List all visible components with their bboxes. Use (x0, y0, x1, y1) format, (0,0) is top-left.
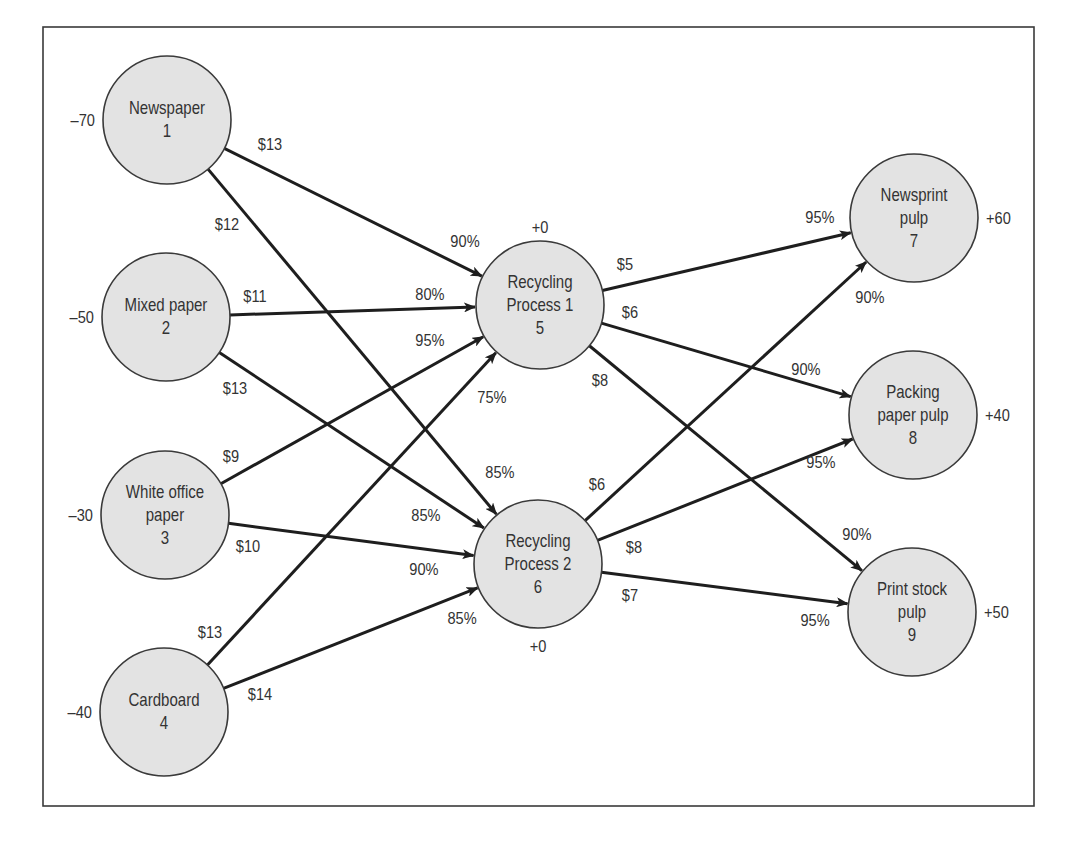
node-circle (100, 648, 228, 776)
node-label: Newsprint (881, 185, 948, 204)
node-label: Recycling (505, 531, 570, 550)
node-2: Mixed paper2–50 (70, 253, 230, 381)
edge-3-5-cost-label: $9 (223, 447, 239, 465)
edge-6-7-yield-label: 90% (855, 288, 884, 306)
node-1: Newspaper1–70 (71, 56, 231, 184)
edge-4-6-cost-label: $14 (248, 685, 273, 703)
edge-5-8-cost-label: $6 (622, 303, 638, 321)
node-supply-label: +40 (985, 406, 1010, 424)
edge-2-6-yield-label: 85% (411, 506, 440, 524)
edge-6-9-yield-label: 95% (800, 611, 829, 629)
edge-1-5-cost-label: $13 (258, 135, 283, 153)
node-label: paper pulp (877, 405, 948, 424)
edge-3-6-yield-label: 90% (409, 560, 438, 578)
edge-6-9-cost-label: $7 (622, 586, 638, 604)
node-label: pulp (898, 602, 926, 621)
edge-5-7-yield-label: 95% (805, 208, 834, 226)
node-label: paper (146, 505, 185, 524)
node-3: White officepaper3–30 (69, 451, 229, 579)
node-supply-label: –70 (71, 111, 96, 129)
node-label: 4 (160, 713, 168, 732)
node-label: White office (126, 482, 204, 501)
edge-4-5-cost-label: $13 (198, 623, 223, 641)
edge-5-9-cost-label: $8 (592, 371, 608, 389)
network-diagram: Newspaper1–70Mixed paper2–50White office… (0, 0, 1078, 841)
edge-6-to-9 (601, 572, 847, 604)
node-label: 1 (163, 121, 171, 140)
node-supply-label: –30 (69, 506, 94, 524)
node-label: Process 1 (507, 295, 574, 314)
node-label: 3 (161, 528, 169, 547)
edge-5-8-yield-label: 90% (791, 360, 820, 378)
node-supply-label: +60 (986, 209, 1011, 227)
edge-1-6-cost-label: $12 (215, 215, 240, 233)
edge-3-6-cost-label: $10 (236, 537, 261, 555)
node-supply-label: +0 (532, 218, 549, 236)
edge-1-5-yield-label: 90% (450, 232, 479, 250)
edge-1-to-5 (224, 148, 481, 276)
node-5: RecyclingProcess 15+0 (476, 218, 604, 369)
node-circle (102, 253, 230, 381)
node-label: Print stock (877, 579, 948, 598)
node-label: Newspaper (129, 98, 206, 117)
edge-2-to-6 (219, 352, 484, 528)
node-label: 7 (910, 231, 918, 250)
edge-4-to-6 (224, 588, 478, 689)
node-circle (103, 56, 231, 184)
node-label: 9 (908, 625, 916, 644)
node-label: pulp (900, 208, 928, 227)
edge-6-8-yield-label: 95% (806, 453, 835, 471)
edge-1-6-yield-label: 85% (485, 463, 514, 481)
edge-2-6-cost-label: $13 (223, 379, 248, 397)
node-label: Packing (886, 382, 940, 401)
edge-2-5-yield-label: 80% (415, 285, 444, 303)
node-label: Recycling (507, 272, 572, 291)
node-9: Print stockpulp9+50 (848, 548, 1009, 676)
edge-3-5-yield-label: 95% (415, 331, 444, 349)
edge-6-7-cost-label: $6 (589, 475, 605, 493)
edge-6-to-7 (585, 262, 866, 521)
node-label: 5 (536, 318, 544, 337)
node-supply-label: –50 (70, 308, 95, 326)
edge-5-7-cost-label: $5 (617, 255, 633, 273)
edge-5-to-7 (602, 233, 850, 291)
node-8: Packingpaper pulp8+40 (849, 351, 1010, 479)
node-label: Cardboard (128, 690, 199, 709)
edge-4-5-yield-label: 75% (477, 388, 506, 406)
edge-1-to-6 (208, 169, 496, 514)
edge-4-6-yield-label: 85% (447, 609, 476, 627)
node-label: 2 (162, 318, 170, 337)
edge-2-to-5 (230, 307, 475, 315)
node-6: RecyclingProcess 26+0 (474, 500, 602, 655)
edge-2-5-cost-label: $11 (243, 287, 266, 305)
nodes-layer: Newspaper1–70Mixed paper2–50White office… (68, 56, 1011, 776)
node-label: 6 (534, 577, 542, 596)
node-7: Newsprintpulp7+60 (850, 154, 1011, 282)
node-supply-label: –40 (68, 703, 93, 721)
node-4: Cardboard4–40 (68, 648, 228, 776)
node-label: Mixed paper (125, 295, 208, 314)
node-label: 8 (909, 428, 917, 447)
edge-5-9-yield-label: 90% (842, 525, 871, 543)
node-label: Process 2 (505, 554, 572, 573)
edge-3-to-6 (228, 523, 473, 555)
node-supply-label: +50 (984, 603, 1009, 621)
edge-6-8-cost-label: $8 (626, 538, 642, 556)
node-supply-label: +0 (530, 637, 547, 655)
